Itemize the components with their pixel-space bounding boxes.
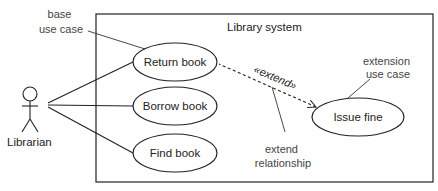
extend-stereotype: «extend» [252, 63, 298, 92]
association-return [48, 62, 133, 103]
svg-text:Issue fine: Issue fine [333, 111, 382, 123]
actor-librarian [22, 87, 38, 132]
use-case-find-book: Find book [133, 134, 217, 172]
svg-text:Borrow book: Borrow book [143, 100, 208, 112]
svg-text:Find book: Find book [150, 147, 201, 159]
annotation-extension-use-case: extension use case [363, 55, 413, 80]
annotation-base-use-case: base use case [39, 8, 83, 35]
annotation-extend-relationship: extend relationship [255, 143, 311, 169]
use-case-borrow-book: Borrow book [133, 87, 217, 125]
association-find [48, 107, 133, 153]
use-case-issue-fine: Issue fine [312, 98, 404, 136]
association-borrow [48, 105, 133, 106]
use-case-diagram: Library system Librarian Return book Bor… [0, 0, 438, 191]
actor-name: Librarian [7, 136, 52, 148]
actor-head-icon [23, 87, 37, 101]
leader-extension-use-case [348, 79, 370, 98]
use-case-return-book: Return book [133, 43, 217, 81]
svg-text:Return book: Return book [144, 56, 207, 68]
leader-extend-relationship [272, 87, 285, 132]
system-title: Library system [227, 21, 302, 33]
